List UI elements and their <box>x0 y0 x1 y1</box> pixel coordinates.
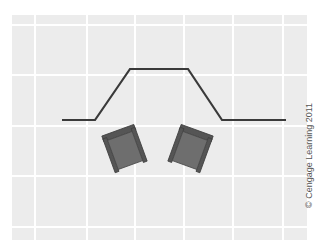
left-armchair-icon <box>102 124 147 172</box>
diagram-canvas: © Cengage Learning 2011 <box>0 0 320 250</box>
right-armchair-icon <box>168 124 213 172</box>
floor-plan-drawing <box>0 0 320 250</box>
wall-outline <box>62 69 286 120</box>
copyright-credit: © Cengage Learning 2011 <box>304 103 314 208</box>
